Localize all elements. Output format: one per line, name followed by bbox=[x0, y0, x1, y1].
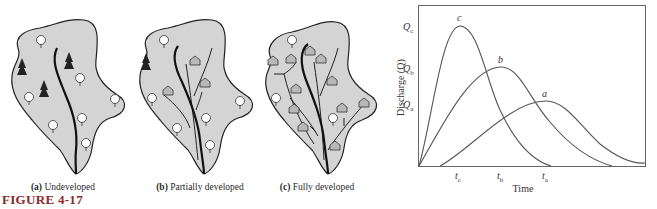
curve-label-b: b bbox=[498, 54, 503, 65]
x-tick-tb: tb bbox=[497, 170, 503, 184]
curve-label-a: a bbox=[542, 88, 547, 99]
watershed-fully-developed-illustration bbox=[256, 0, 391, 185]
curve-a bbox=[440, 101, 645, 166]
x-tick-ta: ta bbox=[542, 170, 548, 184]
caption-partially-developed: (b) Partially developed bbox=[156, 182, 244, 192]
hydrograph-chart: Discharge (Q) Qc Qb Qa tc tb ta Time c b… bbox=[390, 0, 657, 209]
curve-b bbox=[419, 67, 612, 166]
figure-label: FIGURE 4-17 bbox=[2, 192, 83, 208]
plot-frame bbox=[419, 6, 646, 167]
caption-undeveloped: (a) Undeveloped bbox=[31, 182, 95, 192]
watershed-undeveloped-illustration bbox=[0, 0, 135, 185]
panel-fully-developed bbox=[256, 0, 391, 185]
y-tick-qb: Qb bbox=[403, 63, 414, 77]
curve-label-c: c bbox=[457, 12, 461, 23]
x-tick-tc: tc bbox=[455, 170, 461, 184]
x-axis-label: Time bbox=[513, 183, 534, 194]
y-tick-qc: Qc bbox=[403, 21, 413, 35]
panel-undeveloped bbox=[0, 0, 135, 185]
caption-fully-developed: (c) Fully developed bbox=[280, 182, 354, 192]
watershed-outline bbox=[266, 22, 377, 174]
panel-partially-developed bbox=[128, 0, 263, 185]
hydrograph-plot bbox=[390, 0, 657, 209]
watershed-partially-developed-illustration bbox=[128, 0, 263, 185]
y-tick-qa: Qa bbox=[403, 99, 413, 113]
